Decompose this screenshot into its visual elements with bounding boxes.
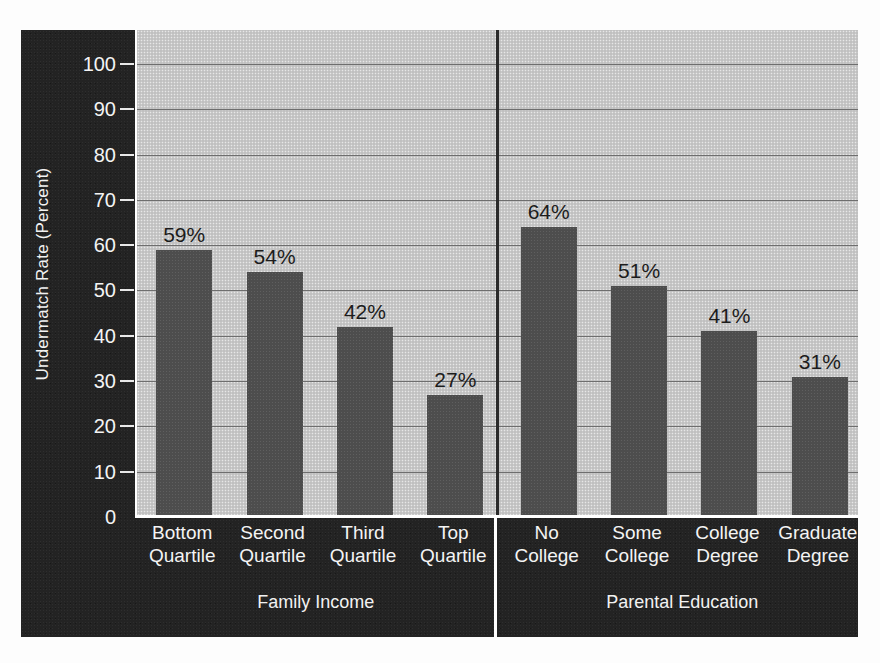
x-axis-tick-label: SomeCollege: [605, 521, 669, 567]
group-titles-row: Family IncomeParental Education: [135, 592, 858, 632]
bar-value-label: 51%: [618, 259, 660, 283]
plot-area: 59%54%42%27%64%51%41%31%: [135, 30, 858, 517]
x-axis-tick-label: TopQuartile: [420, 521, 487, 567]
bar: [611, 286, 667, 517]
x-axis-tick-label-line2: Quartile: [149, 544, 216, 567]
y-axis-tick-mark: [120, 108, 134, 110]
x-axis-tick-label-line1: Some: [605, 521, 669, 544]
x-axis-tick-label-line1: Graduate: [778, 521, 857, 544]
bar-value-label: 41%: [708, 304, 750, 328]
x-axis-tick-label-line2: Quartile: [330, 544, 397, 567]
bar-value-label: 42%: [344, 300, 386, 324]
y-axis-tick-label: 50: [94, 280, 116, 300]
bar: [701, 331, 757, 517]
bar: [521, 227, 577, 517]
x-axis-tick-label-line1: Second: [239, 521, 306, 544]
y-axis-title: Undermatch Rate (Percent): [33, 167, 53, 380]
x-axis-tick-label-line2: Quartile: [239, 544, 306, 567]
group-title: Parental Education: [606, 592, 758, 613]
y-axis-tick-label: 20: [94, 416, 116, 436]
bar-value-label: 54%: [254, 245, 296, 269]
bar: [792, 377, 848, 517]
bar: [337, 327, 393, 517]
x-axis-tick-label-line2: Degree: [695, 544, 759, 567]
bar-value-label: 27%: [434, 368, 476, 392]
y-axis-tick-label: 10: [94, 462, 116, 482]
bar: [247, 272, 303, 517]
x-axis-tick-label: ThirdQuartile: [330, 521, 397, 567]
y-axis-tick-labels: 1009080706050403020100: [62, 30, 120, 517]
y-axis-tick-label: 40: [94, 326, 116, 346]
x-axis-tick-label-line1: No: [514, 521, 578, 544]
y-axis-tick-mark: [120, 244, 134, 246]
y-axis-tick-label: 60: [94, 235, 116, 255]
x-axis-tick-label: SecondQuartile: [239, 521, 306, 567]
bar: [156, 250, 212, 517]
y-axis-tick-mark: [120, 425, 134, 427]
x-axis-tick-label-line1: Third: [330, 521, 397, 544]
y-axis-tick-mark: [120, 289, 134, 291]
y-axis-tick-mark: [120, 380, 134, 382]
bar-value-label: 64%: [528, 200, 570, 224]
x-axis-tick-label-line1: Top: [420, 521, 487, 544]
y-axis-tick-marks: [120, 30, 136, 517]
y-axis-tick-mark: [120, 154, 134, 156]
y-axis-tick-label: 80: [94, 145, 116, 165]
bar-value-label: 31%: [799, 350, 841, 374]
y-axis-tick-label: 90: [94, 99, 116, 119]
x-axis-tick-label-line2: College: [605, 544, 669, 567]
x-axis-tick-label-line1: College: [695, 521, 759, 544]
y-axis-tick-label: 30: [94, 371, 116, 391]
y-axis-title-container: Undermatch Rate (Percent): [21, 30, 65, 517]
x-axis-tick-label-line2: Degree: [778, 544, 857, 567]
x-axis-tick-label: NoCollege: [514, 521, 578, 567]
group-title: Family Income: [257, 592, 374, 613]
y-axis-tick-label: 100: [83, 54, 116, 74]
x-axis-tick-label-line2: Quartile: [420, 544, 487, 567]
y-axis-tick-mark: [120, 63, 134, 65]
group-divider-line: [496, 30, 499, 517]
x-axis-tick-label: GraduateDegree: [778, 521, 857, 567]
y-axis-tick-label: 70: [94, 190, 116, 210]
y-axis-tick-mark: [120, 471, 134, 473]
x-axis-tick-label-line1: Bottom: [149, 521, 216, 544]
x-axis-tick-label: BottomQuartile: [149, 521, 216, 567]
bar-chart-figure: Undermatch Rate (Percent) 10090807060504…: [0, 0, 880, 663]
bar: [427, 395, 483, 517]
x-axis-tick-labels: BottomQuartileSecondQuartileThirdQuartil…: [135, 521, 858, 583]
y-axis-tick-label: 0: [105, 507, 116, 527]
bar-value-label: 59%: [163, 223, 205, 247]
x-axis-tick-label-line2: College: [514, 544, 578, 567]
x-axis-tick-label: CollegeDegree: [695, 521, 759, 567]
y-axis-tick-mark: [120, 335, 134, 337]
y-axis-tick-mark: [120, 199, 134, 201]
